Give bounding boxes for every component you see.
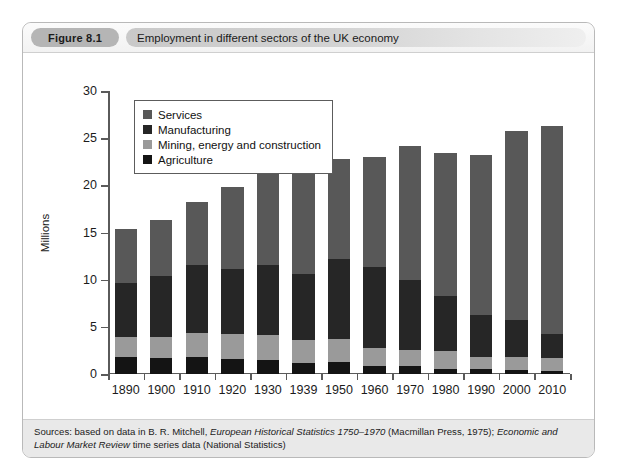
bar-segment (470, 357, 492, 369)
legend-label: Agriculture (158, 154, 213, 166)
bar-segment (115, 357, 137, 374)
x-tick (286, 374, 288, 380)
bar-segment (363, 366, 385, 374)
x-tick-label: 1990 (467, 383, 495, 397)
bar-segment (399, 366, 421, 374)
bar-1970 (399, 146, 421, 374)
source-prefix: Sources: based on data in B. R. Mitchell… (34, 426, 210, 437)
bar-segment (115, 283, 137, 338)
bar-segment (399, 146, 421, 280)
legend-label: Services (158, 109, 202, 121)
plot-region: Millions 051015202530 189019001910192019… (108, 91, 570, 374)
y-tick-label: 20 (83, 178, 97, 192)
bar-2000 (505, 131, 527, 374)
x-tick (321, 374, 323, 380)
legend-label: Manufacturing (158, 124, 231, 136)
bar-segment (257, 335, 279, 360)
x-tick-label: 2010 (538, 383, 566, 397)
bar-segment (470, 369, 492, 374)
bar-1980 (434, 153, 456, 374)
x-tick (144, 374, 146, 380)
x-tick-label: 1910 (183, 383, 211, 397)
y-tick-label: 0 (90, 367, 97, 381)
y-tick-label: 10 (83, 273, 97, 287)
bar-segment (505, 320, 527, 357)
bar-segment (115, 337, 137, 357)
bar-segment (186, 265, 208, 334)
x-tick (534, 374, 536, 380)
bar-segment (399, 280, 421, 351)
bar-segment (150, 276, 172, 337)
figure-panel: Figure 8.1 Employment in different secto… (22, 22, 595, 458)
bar-segment (328, 259, 350, 339)
y-tick-label: 25 (83, 131, 97, 145)
y-tick (101, 185, 108, 187)
bar-segment (328, 339, 350, 362)
x-tick (250, 374, 252, 380)
bar-2010 (541, 126, 563, 374)
x-tick (499, 374, 501, 380)
bar-segment (505, 131, 527, 321)
legend-item: Manufacturing (143, 122, 321, 137)
bar-segment (257, 171, 279, 264)
legend-swatch (143, 140, 152, 149)
bar-segment (328, 362, 350, 374)
y-tick-label: 15 (83, 226, 97, 240)
y-tick-label: 5 (90, 320, 97, 334)
x-tick (463, 374, 465, 380)
bar-segment (221, 269, 243, 334)
bar-1920 (221, 187, 243, 374)
bar-segment (505, 357, 527, 370)
x-tick (357, 374, 359, 380)
legend-item: Mining, energy and construction (143, 137, 321, 152)
legend-swatch (143, 125, 152, 134)
bar-segment (541, 126, 563, 334)
bar-segment (434, 369, 456, 374)
bar-segment (363, 267, 385, 347)
legend-item: Agriculture (143, 152, 321, 167)
bar-1910 (186, 202, 208, 374)
bar-segment (434, 351, 456, 369)
y-tick (101, 233, 108, 235)
y-tick-label: 30 (83, 84, 97, 98)
chart-area: Millions 051015202530 189019001910192019… (23, 53, 595, 421)
y-axis (108, 91, 110, 374)
bar-segment (434, 153, 456, 295)
bar-segment (541, 358, 563, 371)
y-tick (101, 374, 108, 376)
bar-1930 (257, 171, 279, 374)
x-tick-label: 1890 (112, 383, 140, 397)
bar-segment (150, 220, 172, 276)
y-tick (101, 327, 108, 329)
source-middle: (Macmillan Press, 1975); (385, 426, 496, 437)
figure-number-badge: Figure 8.1 (31, 28, 119, 47)
bar-segment (399, 350, 421, 366)
figure-caption-bar: Employment in different sectors of the U… (126, 28, 586, 47)
bar-segment (186, 333, 208, 357)
bar-1990 (470, 155, 492, 374)
bar-segment (292, 363, 314, 374)
legend-swatch (143, 110, 152, 119)
x-tick-label: 1900 (147, 383, 175, 397)
y-tick (101, 280, 108, 282)
bar-segment (292, 274, 314, 340)
x-tick-label: 1970 (396, 383, 424, 397)
bar-1950 (328, 159, 350, 374)
bar-segment (470, 315, 492, 357)
x-tick-label: 1939 (290, 383, 318, 397)
y-axis-title: Millions (39, 213, 51, 251)
figure-caption: Employment in different sectors of the U… (137, 32, 399, 44)
bar-1900 (150, 220, 172, 374)
figure-header: Figure 8.1 Employment in different secto… (23, 23, 594, 53)
x-tick (179, 374, 181, 380)
x-tick (570, 374, 572, 380)
x-tick-label: 1950 (325, 383, 353, 397)
bar-segment (221, 334, 243, 359)
y-tick (101, 91, 108, 93)
x-tick-label: 2000 (503, 383, 531, 397)
bar-segment (186, 357, 208, 374)
legend-label: Mining, energy and construction (158, 139, 321, 151)
bar-segment (505, 370, 527, 374)
source-note: Sources: based on data in B. R. Mitchell… (23, 419, 594, 457)
bar-segment (186, 202, 208, 264)
